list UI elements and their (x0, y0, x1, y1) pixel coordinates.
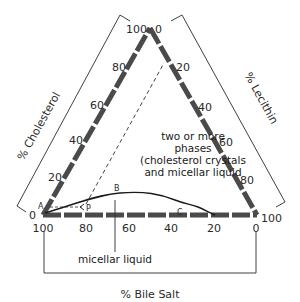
bile-salt-bracket (44, 231, 256, 273)
micellar-liquid-label: micellar liquid (78, 253, 152, 265)
lecithin-tick: 20 (176, 61, 190, 74)
micellar-boundary-curve (45, 192, 215, 215)
bile-salt-axis-title: % Bile Salt (121, 288, 181, 301)
cholesterol-tick: 20 (48, 171, 62, 184)
lecithin-tick: 80 (240, 174, 254, 187)
region-label-line: phases (174, 142, 211, 154)
boundary-dashed-line (86, 63, 164, 204)
bile-salt-tick: 20 (207, 222, 221, 235)
point-b-label: B (114, 184, 120, 193)
cholesterol-tick: 80 (112, 61, 126, 74)
bile-salt-tick: 0 (253, 222, 260, 235)
cholesterol-tick: 0 (29, 209, 36, 222)
bile-salt-tick: 100 (33, 222, 54, 235)
point-p-label: P (86, 204, 91, 213)
cholesterol-axis-title: % Cholesterol (15, 90, 63, 163)
region-label-line: (cholesterol crystals (140, 154, 246, 166)
bile-salt-ticks: 100 80 60 40 20 0 (33, 222, 260, 235)
lecithin-ticks: 0 20 40 60 80 100 (155, 23, 282, 225)
region-label-line: and micellar liquid (144, 166, 241, 178)
triangle-axes (43, 28, 257, 215)
cholesterol-tick: 100 (126, 23, 147, 36)
cholesterol-tick: 60 (90, 99, 104, 112)
axis-brackets (17, 15, 285, 273)
region-label-line: two or more (161, 130, 225, 142)
point-a-label: A (38, 202, 44, 211)
cholesterol-bracket (17, 15, 130, 212)
lecithin-tick: 0 (155, 23, 162, 36)
bile-salt-tick: 40 (164, 222, 178, 235)
lecithin-tick: 100 (261, 212, 282, 225)
point-c-label: C (177, 208, 183, 217)
bile-salt-tick: 60 (122, 222, 136, 235)
cholesterol-edge (43, 28, 150, 215)
lecithin-tick: 40 (198, 101, 212, 114)
bile-salt-tick: 80 (79, 222, 93, 235)
ternary-diagram: 0 20 40 60 80 100 0 20 40 60 80 100 100 … (0, 0, 300, 302)
lecithin-axis-title: % Lecithin (242, 70, 281, 126)
cholesterol-tick: 40 (69, 134, 83, 147)
